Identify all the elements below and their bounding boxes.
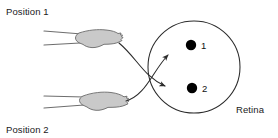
retina-dot-1 [186,40,196,50]
arm-line-upper-1 [44,31,82,34]
arm-line-lower-2 [44,105,84,108]
arrow-position-1-to-dot-2 [119,43,165,86]
retina-label: Retina [236,104,265,115]
retinal-projection-figure: Position 1 Position 2 [0,0,278,138]
arrow-position-2-to-dot-1 [126,55,168,101]
hand-silhouette-1 [76,30,124,48]
retina-dot-1-number: 1 [201,40,206,51]
position-2-label: Position 2 [6,124,49,135]
retina-dot-2 [187,83,197,93]
hand-position-2 [44,92,129,110]
retina-dot-2-number: 2 [202,83,207,94]
arm-line-upper-2 [44,96,84,97]
diagram-canvas: Position 1 Position 2 [0,0,278,138]
hand-position-1 [44,30,123,48]
hand-silhouette-2 [80,92,130,110]
position-1-label: Position 1 [6,6,49,17]
arm-line-lower-1 [44,43,80,45]
retina-circle [148,21,240,113]
